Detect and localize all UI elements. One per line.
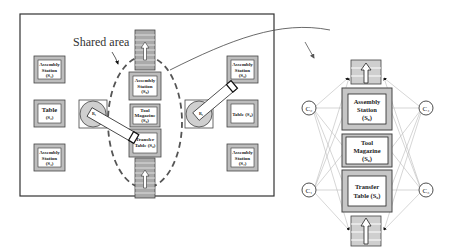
svg-text:Assembly: Assembly (232, 150, 253, 155)
conveyor-bottom (135, 158, 155, 198)
svg-text:Magazine: Magazine (353, 147, 380, 154)
svg-text:(S₇): (S₇) (239, 161, 247, 166)
node-c1: C₁ (302, 183, 316, 197)
resource-s6: Transfer Table (S₆) (342, 170, 392, 212)
svg-text:Station: Station (42, 156, 58, 161)
svg-text:Station: Station (357, 106, 377, 113)
svg-text:(S₂): (S₂) (46, 115, 54, 120)
svg-text:C₂: C₂ (305, 105, 313, 113)
conveyor-top (135, 30, 155, 70)
svg-text:Table (S₆): Table (S₆) (354, 192, 381, 200)
svg-text:(S₅): (S₅) (239, 73, 247, 78)
svg-text:Assembly: Assembly (232, 62, 253, 67)
svg-text:Assembly: Assembly (39, 62, 60, 67)
resource-s8: Assembly Station (S₈) (342, 88, 392, 130)
svg-text:Tool: Tool (361, 139, 373, 146)
svg-text:(S₉): (S₉) (141, 118, 149, 123)
station-s8: Assembly Station (S₈) (129, 72, 161, 100)
graph-conveyor-top (351, 60, 381, 84)
svg-text:Table (S₆): Table (S₆) (135, 143, 156, 148)
svg-text:C₃: C₃ (422, 187, 430, 195)
station-s3: Assembly Station (S₃) (34, 144, 65, 171)
svg-text:Assembly: Assembly (354, 98, 381, 105)
station-s7: Assembly Station (S₇) (227, 144, 258, 171)
diagram-canvas: Shared area Assembly Station (S₁) Table … (0, 0, 460, 249)
svg-text:Station: Station (42, 68, 58, 73)
station-s5: Assembly Station (S₅) (227, 56, 258, 83)
node-c2: C₂ (302, 101, 316, 115)
svg-text:(S₁): (S₁) (46, 73, 54, 78)
svg-text:Table: Table (42, 106, 57, 113)
zoom-connector-arrow (305, 42, 314, 58)
svg-text:C₁: C₁ (305, 187, 312, 195)
svg-text:C₄: C₄ (422, 105, 430, 113)
svg-text:Table (S₄): Table (S₄) (232, 112, 253, 117)
svg-text:Assembly: Assembly (135, 78, 156, 83)
resource-s9: Tool Magazine (S₉) (342, 134, 392, 167)
station-s4: Table (S₄) (227, 100, 258, 127)
shared-area-label: Shared area (73, 35, 130, 49)
svg-text:Transfer: Transfer (136, 137, 155, 142)
station-s9: Tool Magazine (S₉) (130, 104, 160, 127)
shared-area-pointer-arrow (112, 52, 118, 64)
svg-text:Assembly: Assembly (39, 150, 60, 155)
svg-text:Station: Station (235, 68, 251, 73)
node-c3: C₃ (419, 183, 433, 197)
graph-conveyor-bottom (351, 216, 381, 246)
svg-text:Station: Station (235, 156, 251, 161)
svg-text:(S₉): (S₉) (362, 155, 372, 163)
svg-text:Station: Station (137, 84, 153, 89)
svg-text:(S₈): (S₈) (141, 89, 149, 94)
node-c4: C₄ (419, 101, 433, 115)
svg-text:(S₃): (S₃) (46, 161, 54, 166)
svg-text:Transfer: Transfer (355, 183, 379, 190)
station-s1: Assembly Station (S₁) (34, 56, 65, 83)
svg-text:(S₈): (S₈) (362, 114, 372, 122)
station-s2: Table (S₂) (34, 100, 65, 127)
